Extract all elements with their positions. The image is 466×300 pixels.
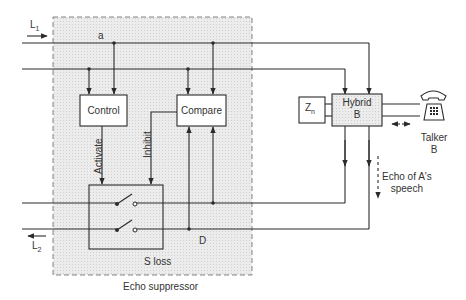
telephone-icon	[421, 91, 446, 120]
echo-suppressor-diagram	[0, 0, 466, 300]
outgoing-line-label: L2	[32, 240, 41, 255]
impedance-label: Zn	[305, 102, 315, 117]
incoming-line-label: L1	[30, 19, 39, 34]
switch-loss-label: S loss	[144, 256, 171, 267]
inhibit-signal-label: Inhibit	[142, 131, 153, 158]
activate-signal-label: Activate	[93, 138, 104, 174]
node-d-label: D	[199, 235, 206, 246]
control-block: Control	[80, 105, 127, 116]
hybrid-label: Hybrid B	[332, 97, 382, 121]
node-a-label: a	[98, 30, 104, 41]
echo-label: Echo of A's speech	[382, 171, 432, 195]
compare-block: Compare	[177, 105, 226, 116]
caption: Echo suppressor	[123, 281, 198, 292]
talker-label: Talker B	[414, 132, 454, 156]
